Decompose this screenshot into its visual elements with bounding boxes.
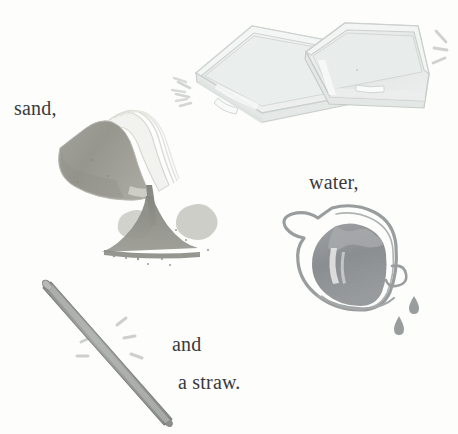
sand-bag xyxy=(59,110,179,200)
drinking-straw xyxy=(41,278,174,428)
label-and: and xyxy=(172,334,201,354)
scene-artwork xyxy=(0,0,458,434)
illustration-canvas: sand, water, and a straw. xyxy=(0,0,458,434)
label-water: water, xyxy=(309,172,359,192)
water-drops xyxy=(394,296,419,335)
label-straw: a straw. xyxy=(178,372,241,392)
water-pitcher xyxy=(284,206,406,310)
sparkle-right-of-containers xyxy=(433,31,447,63)
label-sand: sand, xyxy=(14,98,57,118)
sparkle-left-of-containers xyxy=(176,82,191,106)
